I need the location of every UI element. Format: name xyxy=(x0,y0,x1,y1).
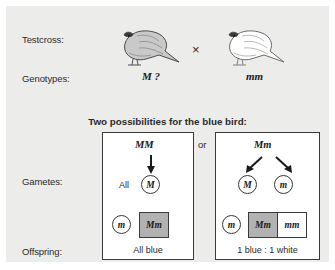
right-gamete-circle-M: M xyxy=(238,175,257,194)
or-connector: or xyxy=(198,139,206,150)
right-offspring-cell-Mm: Mm xyxy=(248,212,278,238)
left-gamete-arrow xyxy=(145,155,157,175)
right-gamete-arrows xyxy=(240,155,298,177)
offspring-row-label: Offspring: xyxy=(22,246,62,257)
blue-bird-illustration xyxy=(119,26,185,68)
right-gamete-circle-m: m xyxy=(274,175,293,194)
possibility-panel-left: MM All M m Mm All blue xyxy=(102,132,194,260)
right-parent-genotype: Mm xyxy=(254,139,272,150)
right-other-parent-gamete-circle: m xyxy=(222,215,241,234)
blue-bird-genotype: M ? xyxy=(142,70,160,82)
right-offspring-cell-mm: mm xyxy=(277,212,307,238)
testcross-row-label: Testcross: xyxy=(22,34,64,45)
gametes-row-label: Gametes: xyxy=(22,176,62,187)
possibilities-heading: Two possibilities for the blue bird: xyxy=(6,116,329,127)
left-result-label: All blue xyxy=(103,245,193,255)
white-bird-illustration xyxy=(224,26,290,68)
left-gamete-circle-M: M xyxy=(141,175,160,194)
left-offspring-cell-Mm: Mm xyxy=(139,212,169,238)
left-parent-genotype: MM xyxy=(135,139,154,150)
genotypes-row-label: Genotypes: xyxy=(22,73,70,84)
genetics-testcross-figure: Testcross: Genotypes: × M xyxy=(6,6,329,262)
left-all-label: All xyxy=(119,180,129,190)
possibility-panel-right: Mm M m m Mm mm 1 blue : 1 white xyxy=(215,132,320,260)
left-other-parent-gamete-circle: m xyxy=(112,215,131,234)
right-result-label: 1 blue : 1 white xyxy=(216,245,319,255)
cross-symbol: × xyxy=(192,42,200,57)
white-bird-genotype: mm xyxy=(246,70,263,82)
